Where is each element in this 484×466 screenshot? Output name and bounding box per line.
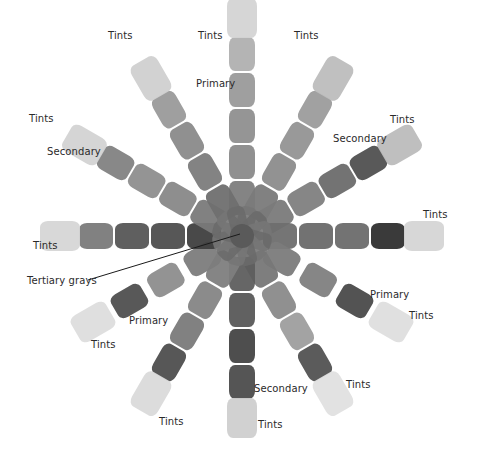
label-tints-sse: Tints	[346, 379, 371, 390]
label-tints-wnw: Tints	[29, 113, 54, 124]
label-tints-wsw: Tints	[91, 339, 116, 350]
color-wheel-diagram: Tints Tints Tints Primary Tints Secondar…	[0, 0, 484, 466]
label-tints-nnw: Tints	[108, 30, 133, 41]
paint-swatch	[145, 260, 187, 300]
label-tints-s: Tints	[258, 419, 283, 430]
paint-swatch	[371, 223, 405, 249]
label-tints-n: Tints	[198, 30, 223, 41]
paint-swatch	[297, 260, 339, 300]
paint-swatch	[229, 293, 255, 327]
paint-swatch	[79, 223, 113, 249]
tint-swatch	[227, 0, 257, 38]
paint-swatch	[229, 365, 255, 399]
label-primary-wsw: Primary	[129, 315, 168, 326]
paint-swatch	[335, 223, 369, 249]
label-primary-ese: Primary	[370, 289, 409, 300]
label-primary-n: Primary	[196, 78, 235, 89]
label-tints-w: Tints	[33, 240, 58, 251]
tint-swatch	[404, 221, 444, 251]
paint-swatch	[229, 329, 255, 363]
spoke-s	[227, 257, 257, 438]
label-tertiary-grays: Tertiary grays	[27, 275, 97, 286]
paint-swatch	[229, 37, 255, 71]
label-tints-nne: Tints	[294, 30, 319, 41]
spoke-n	[227, 0, 257, 215]
tint-swatch	[366, 299, 416, 345]
paint-swatch	[151, 223, 185, 249]
label-tints-ese: Tints	[409, 310, 434, 321]
color-wheel-canvas	[0, 0, 484, 466]
label-tints-ssw: Tints	[159, 416, 184, 427]
label-secondary-wnw: Secondary	[47, 146, 101, 157]
label-tints-e: Tints	[423, 209, 448, 220]
paint-swatch	[115, 223, 149, 249]
tint-swatch	[227, 398, 257, 438]
paint-swatch	[299, 223, 333, 249]
label-secondary-ene: Secondary	[333, 133, 387, 144]
paint-swatch	[229, 109, 255, 143]
label-tints-ene: Tints	[390, 114, 415, 125]
spoke-ssw	[128, 248, 243, 419]
label-secondary-s: Secondary	[254, 383, 308, 394]
paint-swatch	[333, 281, 375, 321]
paint-swatch	[229, 145, 255, 179]
spoke-w	[40, 221, 221, 251]
spoke-e	[263, 221, 444, 251]
